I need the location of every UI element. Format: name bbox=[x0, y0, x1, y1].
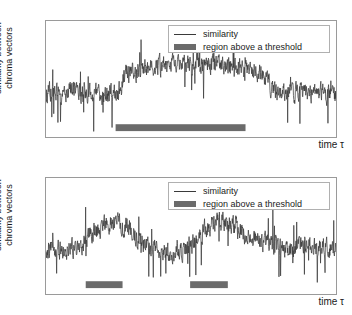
legend-item-similarity-top: similarity bbox=[173, 28, 325, 40]
y-axis-label-line2: chroma vectors bbox=[4, 155, 15, 275]
legend-label-threshold: region above a threshold bbox=[203, 42, 302, 52]
legend-label-similarity: similarity bbox=[203, 186, 238, 196]
legend-bottom: similarity region above a threshold bbox=[168, 182, 330, 210]
legend-item-threshold-top: region above a threshold bbox=[173, 41, 325, 53]
x-axis-label-top: time τ bbox=[318, 139, 344, 150]
legend-swatch-icon bbox=[173, 201, 197, 207]
threshold-region-bar bbox=[116, 124, 246, 131]
similarity-trace bbox=[46, 207, 336, 282]
legend-swatch-icon bbox=[173, 44, 197, 50]
y-axis-label-bottom: similarity between chroma vectors bbox=[0, 155, 33, 275]
threshold-region-bar bbox=[86, 281, 123, 288]
y-axis-label-line2: chroma vectors bbox=[4, 0, 15, 118]
threshold-region-bar bbox=[190, 281, 228, 288]
y-axis-label-top: similarity between chroma vectors bbox=[0, 0, 33, 118]
legend-item-threshold-bottom: region above a threshold bbox=[173, 198, 325, 210]
x-axis-label-bottom: time τ bbox=[318, 296, 344, 307]
legend-item-similarity-bottom: similarity bbox=[173, 185, 325, 197]
chart-panel-top: similarity between chroma vectors simila… bbox=[0, 0, 352, 157]
similarity-figure: similarity between chroma vectors simila… bbox=[0, 0, 352, 315]
legend-label-threshold: region above a threshold bbox=[203, 199, 302, 209]
legend-top: similarity region above a threshold bbox=[168, 25, 330, 53]
legend-line-icon bbox=[173, 191, 197, 192]
legend-label-similarity: similarity bbox=[203, 29, 238, 39]
legend-line-icon bbox=[173, 34, 197, 35]
chart-panel-bottom: similarity between chroma vectors simila… bbox=[0, 157, 352, 314]
similarity-trace bbox=[46, 40, 336, 132]
